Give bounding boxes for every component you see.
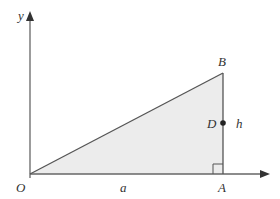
- origin-label: O: [16, 180, 26, 195]
- point-B-label: B: [218, 54, 226, 69]
- base-label: a: [120, 180, 127, 195]
- point-D: [220, 120, 226, 126]
- y-axis-arrow-icon: [26, 11, 34, 21]
- y-axis-label: y: [16, 8, 24, 23]
- height-label: h: [236, 116, 243, 131]
- point-D-label: D: [206, 116, 217, 131]
- x-axis-arrow-icon: [260, 170, 270, 178]
- triangle-diagram: y O a A B D h: [0, 0, 280, 199]
- diagram-canvas: y O a A B D h: [0, 0, 280, 199]
- point-A-label: A: [217, 180, 226, 195]
